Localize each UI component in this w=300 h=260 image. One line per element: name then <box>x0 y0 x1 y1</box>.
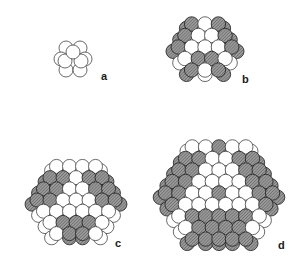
cluster-d <box>153 140 285 251</box>
atom <box>198 63 212 77</box>
shaded-atom <box>185 232 199 246</box>
shaded-atom <box>76 227 90 241</box>
shaded-atom <box>198 232 212 246</box>
panel-label-a: a <box>101 71 107 82</box>
cluster-a <box>54 41 92 77</box>
shaded-atom <box>212 232 226 246</box>
atom <box>49 227 63 241</box>
panel-label-c: c <box>115 238 121 249</box>
cluster-c <box>25 159 127 244</box>
atom <box>89 227 103 241</box>
shaded-atom <box>62 227 76 241</box>
shaded-atom <box>184 63 198 77</box>
shaded-atom <box>225 232 239 246</box>
atom <box>66 45 80 59</box>
cluster-b <box>166 17 244 82</box>
panel-label-d: d <box>278 240 285 251</box>
shaded-atom <box>211 63 225 77</box>
shaded-atom <box>239 232 253 246</box>
panel-label-b: b <box>242 74 249 85</box>
cluster-figure <box>0 0 300 260</box>
